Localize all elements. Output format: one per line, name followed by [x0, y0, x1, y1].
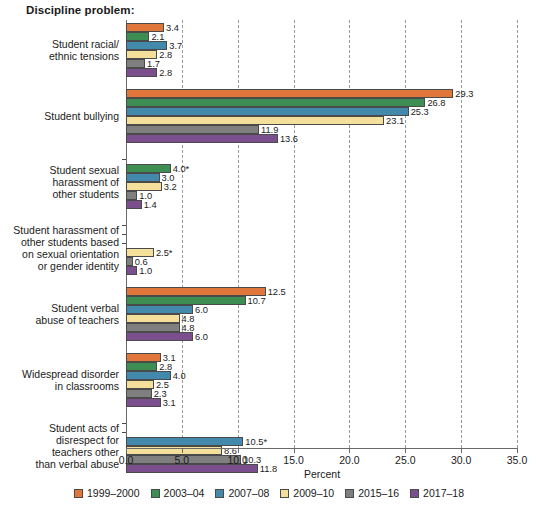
bar-row: 10.7 — [126, 296, 517, 305]
bar-missing-marker — [122, 234, 126, 235]
bar — [126, 125, 259, 134]
bar-row: 2.1 — [126, 32, 517, 41]
legend-label: 2017–18 — [423, 487, 464, 499]
legend-item[interactable]: 1999–2000 — [74, 487, 140, 499]
bar — [126, 107, 409, 116]
bar-row: 3.1 — [126, 353, 517, 362]
bar-row — [126, 419, 517, 428]
bar — [126, 68, 157, 77]
legend-label: 2007–08 — [228, 487, 269, 499]
bar-missing-marker — [122, 225, 126, 226]
bar-row: 2.5* — [126, 248, 517, 257]
bar-row: 10.5* — [126, 437, 517, 446]
legend-item[interactable]: 2015–16 — [345, 487, 399, 499]
x-tick-mark — [405, 448, 406, 453]
bar-row: 1.4 — [126, 200, 517, 209]
bar-row: 4.0* — [126, 164, 517, 173]
x-tick-mark — [182, 448, 183, 453]
legend-item[interactable]: 2009–10 — [280, 487, 334, 499]
bar-value-label: 25.3 — [409, 107, 429, 117]
legend-item[interactable]: 2017–18 — [410, 487, 464, 499]
bar-row: 13.6 — [126, 134, 517, 143]
bar-value-label: 2.1 — [149, 32, 164, 42]
bar — [126, 173, 160, 182]
bar-value-label: 2.5* — [154, 248, 173, 258]
bar-row: 3.4 — [126, 23, 517, 32]
bar — [126, 257, 133, 266]
bar-value-label: 1.4 — [142, 200, 157, 210]
bar-missing-marker — [122, 423, 126, 424]
bar-value-label: 3.4 — [164, 23, 179, 33]
gridline-35.0 — [517, 20, 518, 448]
bar — [126, 353, 161, 362]
x-tick-label: 15.0 — [283, 454, 303, 466]
bar-missing-marker — [122, 159, 126, 160]
legend-swatch — [74, 489, 83, 498]
bar-row: 29.3 — [126, 89, 517, 98]
bar-value-label: 3.1 — [161, 398, 176, 408]
plot-area: Student racial/ ethnic tensions3.42.13.7… — [126, 20, 517, 448]
bar-row: 2.3 — [126, 389, 517, 398]
bar-value-label: 12.5 — [266, 287, 286, 297]
bar-row: 25.3 — [126, 107, 517, 116]
bar-row — [126, 239, 517, 248]
category-label: Student racial/ ethnic tensions — [0, 38, 119, 62]
bar-value-label: 23.1 — [384, 116, 404, 126]
x-tick-mark — [461, 448, 462, 453]
bar — [126, 323, 180, 332]
x-tick-mark — [349, 448, 350, 453]
bar-value-label: 11.9 — [259, 125, 278, 135]
bar-value-label: 6.0 — [193, 332, 208, 342]
bar-group: Student bullying29.326.825.323.111.913.6 — [126, 89, 517, 143]
bar-row: 4.8 — [126, 323, 517, 332]
bar-value-label: 10.7 — [246, 296, 266, 306]
bar-chart: Discipline problem: Student racial/ ethn… — [0, 0, 538, 507]
bar-value-label: 13.6 — [278, 134, 298, 144]
bar — [126, 314, 180, 323]
bar — [126, 389, 152, 398]
bar-group: Student verbal abuse of teachers12.510.7… — [126, 287, 517, 341]
x-tick-label: 25.0 — [395, 454, 415, 466]
category-label: Student verbal abuse of teachers — [0, 302, 119, 326]
bar-row — [126, 230, 517, 239]
bar-row: 12.5 — [126, 287, 517, 296]
legend-swatch — [215, 489, 224, 498]
legend-item[interactable]: 2007–08 — [215, 487, 269, 499]
bar-value-label: 6.0 — [193, 305, 208, 315]
bar-row: 2.5 — [126, 380, 517, 389]
bar-row: 23.1 — [126, 116, 517, 125]
x-tick-mark — [294, 448, 295, 453]
bar — [126, 398, 161, 407]
bar-group: Widespread disorder in classrooms3.12.84… — [126, 353, 517, 407]
bar — [126, 362, 157, 371]
bar-row: 11.9 — [126, 125, 517, 134]
x-tick-mark — [238, 448, 239, 453]
legend-item[interactable]: 2003–04 — [151, 487, 205, 499]
bar-missing-marker — [122, 243, 126, 244]
bar-group: Student racial/ ethnic tensions3.42.13.7… — [126, 23, 517, 77]
bar-row: 3.1 — [126, 398, 517, 407]
bar-row: 2.8 — [126, 68, 517, 77]
bar-value-label: 29.3 — [453, 89, 473, 99]
bar-row: 4.0 — [126, 371, 517, 380]
bar-row: 3.0 — [126, 173, 517, 182]
bar-value-label: 4.0 — [171, 371, 186, 381]
chart-title: Discipline problem: — [26, 4, 135, 16]
category-label: Student harassment of other students bas… — [0, 224, 119, 273]
bar-row: 1.7 — [126, 59, 517, 68]
x-tick-mark — [126, 448, 127, 453]
legend: 1999–20002003–042007–082009–102015–16201… — [0, 487, 538, 499]
bar-group: Student harassment of other students bas… — [126, 221, 517, 275]
x-tick-label: 10.0 — [227, 454, 247, 466]
x-tick-label: 0.0 — [119, 454, 134, 466]
bar-missing-marker — [122, 432, 126, 433]
category-label: Student sexual harassment of other stude… — [0, 164, 119, 201]
bar-value-label: 3.2 — [162, 182, 177, 192]
category-label: Widespread disorder in classrooms — [0, 368, 119, 392]
bar-row: 1.0 — [126, 266, 517, 275]
bar-group: Student sexual harassment of other stude… — [126, 155, 517, 209]
legend-label: 2009–10 — [293, 487, 334, 499]
bar — [126, 191, 137, 200]
bar-row: 6.0 — [126, 332, 517, 341]
x-axis-line — [126, 448, 518, 449]
